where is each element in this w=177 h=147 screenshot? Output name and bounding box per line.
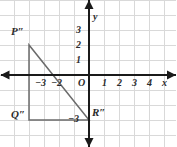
y-tick-3: 3: [76, 25, 81, 35]
x-tick-1: 1: [102, 78, 107, 88]
origin-label: O: [78, 78, 85, 88]
y-tick-minus-3: −3: [68, 114, 79, 124]
y-tick-2: 2: [76, 40, 81, 50]
graph-canvas: [0, 0, 176, 147]
x-tick-2: 2: [117, 78, 122, 88]
coordinate-plane-figure: 3 2 1 −3 −3 −2 1 2 3 4 O x y P″ Q″ R″: [0, 0, 176, 147]
x-tick-minus-3: −3: [35, 78, 46, 88]
vertex-label-q: Q″: [11, 109, 25, 120]
x-tick-4: 4: [147, 78, 152, 88]
axis-lines: [1, 0, 177, 147]
x-tick-3: 3: [132, 78, 137, 88]
vertex-label-p: P″: [11, 26, 24, 37]
x-axis-label: x: [162, 78, 167, 88]
y-tick-1: 1: [76, 55, 81, 65]
x-tick-minus-2: −2: [51, 78, 62, 88]
vertex-label-r: R″: [92, 107, 105, 118]
y-axis-label: y: [93, 12, 97, 22]
